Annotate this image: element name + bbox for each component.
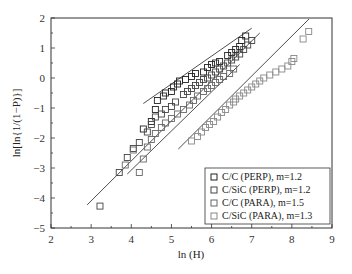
data-point <box>148 137 154 143</box>
x-axis-title: ln (H) <box>178 248 205 261</box>
data-point <box>130 147 136 153</box>
y-axis-title: ln[ln{1/(1−P)}] <box>10 89 23 158</box>
x-tick-label: 8 <box>289 233 295 245</box>
weibull-chart: 23456789 210−1−2−3−4−5 ln (H) ln[ln{1/(1… <box>0 0 352 274</box>
data-point <box>227 71 233 77</box>
data-point <box>152 114 158 120</box>
data-point <box>300 36 306 42</box>
data-point <box>158 111 164 117</box>
data-point <box>136 140 142 146</box>
data-point <box>279 66 285 72</box>
data-point <box>174 111 180 117</box>
data-point <box>136 170 142 176</box>
legend: C/C (PERP), m=1.2C/SiC (PERP), m=1.2C/C … <box>205 168 330 224</box>
data-point <box>306 29 312 35</box>
data-point <box>162 107 168 113</box>
legend-label: C/C (PARA), m=1.5 <box>222 197 304 209</box>
x-axis: 23456789 <box>48 224 335 245</box>
data-point <box>168 104 174 110</box>
data-point <box>195 93 201 99</box>
data-point <box>213 60 219 66</box>
data-point <box>154 98 160 104</box>
y-tick-label: −4 <box>33 192 45 204</box>
data-point <box>152 107 158 113</box>
data-point <box>158 125 164 131</box>
x-tick-label: 6 <box>209 233 215 245</box>
fit-line <box>178 19 309 149</box>
data-point <box>168 89 174 95</box>
x-tick-label: 5 <box>169 233 175 245</box>
data-point <box>231 66 237 72</box>
legend-label: C/C (PERP), m=1.2 <box>222 171 302 183</box>
data-point <box>140 156 146 162</box>
series-0 <box>140 28 251 132</box>
data-point <box>97 203 103 209</box>
data-point <box>124 155 130 161</box>
x-tick-label: 2 <box>48 233 54 245</box>
x-tick-label: 7 <box>249 233 255 245</box>
data-point <box>195 134 201 140</box>
data-point <box>239 38 245 44</box>
y-tick-label: 0 <box>40 72 46 84</box>
data-point <box>199 129 205 135</box>
data-point <box>285 63 291 69</box>
x-tick-label: 4 <box>129 233 135 245</box>
data-point <box>217 59 223 65</box>
y-axis: 210−1−2−3−4−5 <box>33 12 55 234</box>
legend-label: C/SiC (PARA), m=1.3 <box>222 210 312 222</box>
data-point <box>182 77 188 83</box>
y-tick-label: −3 <box>33 162 45 174</box>
y-tick-label: −1 <box>33 102 45 114</box>
data-point <box>201 69 207 75</box>
series-2 <box>122 65 239 176</box>
data-point <box>152 131 158 137</box>
data-point <box>267 72 273 78</box>
data-point <box>189 138 195 144</box>
y-tick-label: 1 <box>40 42 46 54</box>
data-point <box>273 69 279 75</box>
x-tick-label: 9 <box>329 233 335 245</box>
y-tick-label: 2 <box>40 12 46 24</box>
data-point <box>130 146 136 152</box>
y-tick-label: −2 <box>33 132 45 144</box>
x-tick-label: 3 <box>88 233 94 245</box>
data-point <box>215 114 221 120</box>
data-point <box>172 99 178 105</box>
legend-label: C/SiC (PERP), m=1.2 <box>222 184 310 196</box>
y-tick-label: −5 <box>33 222 45 234</box>
